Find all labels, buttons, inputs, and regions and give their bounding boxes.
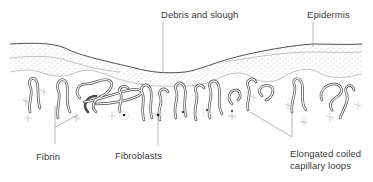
label-debris-and-slough: Debris and slough [161,9,238,21]
label-capillary-line2: capillary loops [290,160,351,172]
label-fibrin: Fibrin [36,151,60,163]
capillary-leader-diagonal [250,112,292,137]
label-epidermis: Epidermis [307,9,350,21]
fibrin-strands [22,88,361,126]
label-fibroblasts: Fibroblasts [115,150,162,162]
label-capillary-line1: Elongated coiled [290,148,361,160]
